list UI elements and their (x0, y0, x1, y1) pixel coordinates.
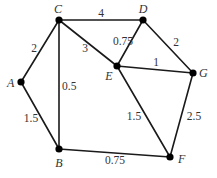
node-f (166, 153, 173, 160)
graph-diagram: 4230.50.75211.52.51.50.75 ABCDEFG (0, 0, 217, 178)
edges-group (21, 20, 193, 157)
edge-c-e (59, 20, 117, 66)
node-g (189, 69, 196, 76)
edge-d-g (143, 20, 193, 73)
edge-weight-label: 4 (98, 7, 104, 19)
edge-weight-label: 2 (173, 36, 179, 48)
edge-weight-label: 2 (31, 42, 37, 54)
node-label-b: B (55, 156, 63, 170)
edge-weight-label: 0.75 (113, 35, 133, 47)
edge-weight-label: 2.5 (187, 110, 202, 122)
node-label-c: C (54, 2, 63, 16)
node-c (55, 16, 62, 23)
node-a (17, 78, 24, 85)
nodes-group (17, 16, 196, 160)
node-e (113, 62, 120, 69)
edge-weight-label: 1 (153, 56, 159, 68)
node-label-f: F (177, 152, 186, 166)
edge-weight-label: 1.5 (24, 112, 39, 124)
edge-weight-label: 0.5 (62, 80, 77, 92)
node-labels-group: ABCDEFG (6, 2, 208, 170)
node-label-a: A (6, 76, 15, 90)
edge-e-f (117, 66, 170, 157)
edge-weight-label: 0.75 (105, 154, 125, 166)
node-b (55, 145, 62, 152)
edge-c-a (21, 20, 59, 82)
node-label-g: G (199, 66, 208, 80)
node-d (139, 16, 146, 23)
node-label-d: D (138, 2, 148, 16)
node-label-e: E (104, 69, 113, 83)
edge-weight-label: 3 (82, 42, 88, 54)
edge-weight-label: 1.5 (127, 110, 142, 122)
